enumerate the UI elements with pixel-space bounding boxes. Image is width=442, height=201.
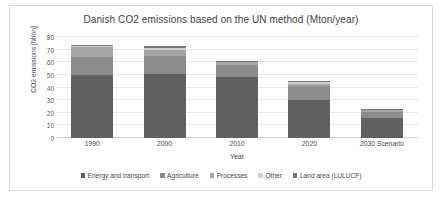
chart-container: Danish CO2 emissions based on the UN met… [9, 5, 433, 191]
x-axis-tick-labels: 19902000201020202030 Scenario [56, 140, 418, 154]
legend-item[interactable]: Land area (LULUCF) [293, 172, 362, 179]
y-tick-label: 80 [47, 34, 54, 41]
legend-item[interactable]: Energy and transport [81, 172, 150, 179]
y-tick-label: 10 [47, 122, 54, 129]
bar-segment[interactable] [288, 100, 330, 138]
legend-label: Energy and transport [88, 172, 150, 179]
x-tick-label: 2020 [302, 140, 317, 147]
x-tick-label: 2000 [157, 140, 172, 147]
legend-label: Other [265, 172, 282, 179]
legend-swatch-icon [160, 173, 165, 178]
bar-series-group [56, 37, 418, 138]
plot-area [56, 37, 418, 138]
bar-segment[interactable] [288, 86, 330, 100]
bar-segment[interactable] [144, 56, 186, 74]
x-tick-label: 2010 [229, 140, 244, 147]
bar-segment[interactable] [71, 47, 113, 57]
x-tick-label: 2030 Scenario [360, 140, 404, 147]
bar-segment[interactable] [71, 57, 113, 75]
legend-swatch-icon [258, 173, 263, 178]
chart-legend: Energy and transportAgricultureProcesses… [10, 172, 432, 179]
bar-group[interactable] [361, 109, 403, 138]
y-tick-label: 20 [47, 109, 54, 116]
legend-swatch-icon [293, 173, 298, 178]
y-axis-tick-labels: 01020304050607080 [30, 37, 54, 138]
y-tick-label: 50 [47, 71, 54, 78]
chart-title: Danish CO2 emissions based on the UN met… [10, 14, 432, 25]
y-tick-label: 0 [50, 135, 54, 142]
bar-segment[interactable] [71, 75, 113, 138]
bar-group[interactable] [216, 61, 258, 138]
bar-group[interactable] [144, 46, 186, 138]
y-tick-label: 30 [47, 97, 54, 104]
y-tick-label: 40 [47, 84, 54, 91]
legend-swatch-icon [210, 173, 215, 178]
legend-label: Land area (LULUCF) [300, 172, 362, 179]
x-tick-label: 1990 [85, 140, 100, 147]
bar-group[interactable] [288, 81, 330, 138]
legend-item[interactable]: Processes [210, 172, 248, 179]
legend-label: Processes [217, 172, 248, 179]
legend-swatch-icon [81, 173, 86, 178]
legend-item[interactable]: Agriculture [160, 172, 199, 179]
x-axis-title: Year [56, 153, 418, 160]
bar-segment[interactable] [216, 65, 258, 78]
legend-label: Agriculture [167, 172, 199, 179]
bar-segment[interactable] [361, 118, 403, 138]
bar-segment[interactable] [144, 74, 186, 138]
bar-group[interactable] [71, 45, 113, 138]
y-tick-label: 60 [47, 59, 54, 66]
legend-item[interactable]: Other [258, 172, 282, 179]
bar-segment[interactable] [216, 77, 258, 138]
y-tick-label: 70 [47, 46, 54, 53]
